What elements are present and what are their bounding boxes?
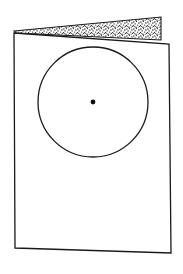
line-drawing-svg — [0, 0, 183, 274]
sheet-group — [14, 33, 171, 253]
center-point-dot — [91, 100, 96, 105]
figure-canvas — [0, 0, 183, 274]
sheet-face — [14, 33, 171, 253]
